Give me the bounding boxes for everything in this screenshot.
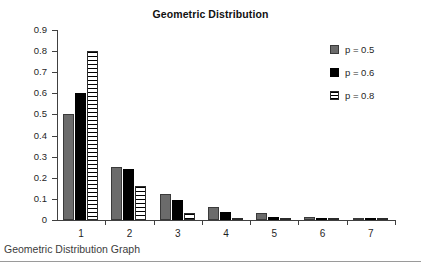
x-axis-label: 7 — [351, 228, 391, 239]
bar — [184, 213, 195, 220]
y-axis-label: 0.9 — [7, 24, 47, 35]
bar — [135, 186, 146, 220]
figure-caption: Geometric Distribution Graph — [4, 243, 140, 255]
bar — [160, 194, 171, 220]
geometric-distribution-figure: Geometric Distribution 0.90.80.70.60.50.… — [0, 0, 421, 266]
chart-legend: p = 0.5p = 0.6p = 0.8 — [330, 40, 416, 109]
x-axis-label: 3 — [158, 228, 198, 239]
bar — [353, 218, 364, 220]
x-axis-label: 6 — [303, 228, 343, 239]
x-axis-label: 2 — [109, 228, 149, 239]
x-axis-label: 1 — [61, 228, 101, 239]
chart-title: Geometric Distribution — [0, 8, 421, 20]
bar — [87, 51, 98, 220]
bar — [172, 200, 183, 220]
y-axis-label: 0.3 — [7, 151, 47, 162]
x-axis-tick — [154, 220, 155, 225]
y-axis-label: 0.5 — [7, 108, 47, 119]
bar — [63, 114, 74, 220]
legend-swatch-icon — [330, 68, 339, 77]
bar — [123, 169, 134, 220]
y-axis-label: 0 — [7, 214, 47, 225]
bar — [365, 218, 376, 220]
legend-item: p = 0.8 — [330, 86, 416, 104]
x-axis-label: 5 — [254, 228, 294, 239]
legend-item: p = 0.6 — [330, 63, 416, 81]
y-axis-label: 0.7 — [7, 66, 47, 77]
x-axis-tick — [395, 220, 396, 225]
bar — [232, 218, 243, 220]
bar — [75, 93, 86, 220]
bar — [304, 217, 315, 220]
legend-swatch-icon — [330, 45, 339, 54]
x-axis-tick — [105, 220, 106, 225]
bar — [268, 217, 279, 220]
bar — [220, 212, 231, 220]
x-axis-tick — [250, 220, 251, 225]
x-axis-tick — [202, 220, 203, 225]
bar — [256, 213, 267, 220]
bar — [111, 167, 122, 220]
x-axis-label: 4 — [206, 228, 246, 239]
x-axis-tick — [347, 220, 348, 225]
y-axis-label: 0.6 — [7, 87, 47, 98]
legend-label: p = 0.6 — [345, 67, 374, 78]
y-axis-label: 0.2 — [7, 172, 47, 183]
bar — [316, 218, 327, 220]
x-axis-tick — [298, 220, 299, 225]
x-axis-line — [57, 220, 395, 221]
legend-label: p = 0.5 — [345, 44, 374, 55]
bar — [328, 218, 339, 220]
y-axis-label: 0.1 — [7, 193, 47, 204]
y-axis-label: 0.8 — [7, 45, 47, 56]
bar — [208, 207, 219, 220]
caption-divider — [0, 261, 421, 262]
legend-item: p = 0.5 — [330, 40, 416, 58]
y-axis-tick — [52, 220, 57, 221]
legend-swatch-icon — [330, 91, 339, 100]
bar — [377, 218, 388, 220]
legend-label: p = 0.8 — [345, 90, 374, 101]
bar — [280, 218, 291, 220]
y-axis-label: 0.4 — [7, 130, 47, 141]
